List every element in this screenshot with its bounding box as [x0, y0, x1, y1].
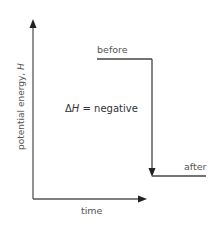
delta-h-annotation: ΔH = negative [65, 104, 138, 114]
x-axis-arrow-icon [138, 196, 147, 203]
after-label: after [184, 162, 206, 172]
y-axis-arrow-icon [30, 19, 37, 28]
x-axis-label: time [81, 206, 102, 216]
delta-symbol: Δ [65, 103, 72, 114]
y-axis-label: potential energy, H [17, 63, 26, 150]
before-label: before [97, 45, 128, 55]
y-axis-label-text: potential energy, [16, 70, 26, 150]
y-axis-var: H [16, 63, 26, 70]
delta-text: = negative [79, 103, 137, 114]
